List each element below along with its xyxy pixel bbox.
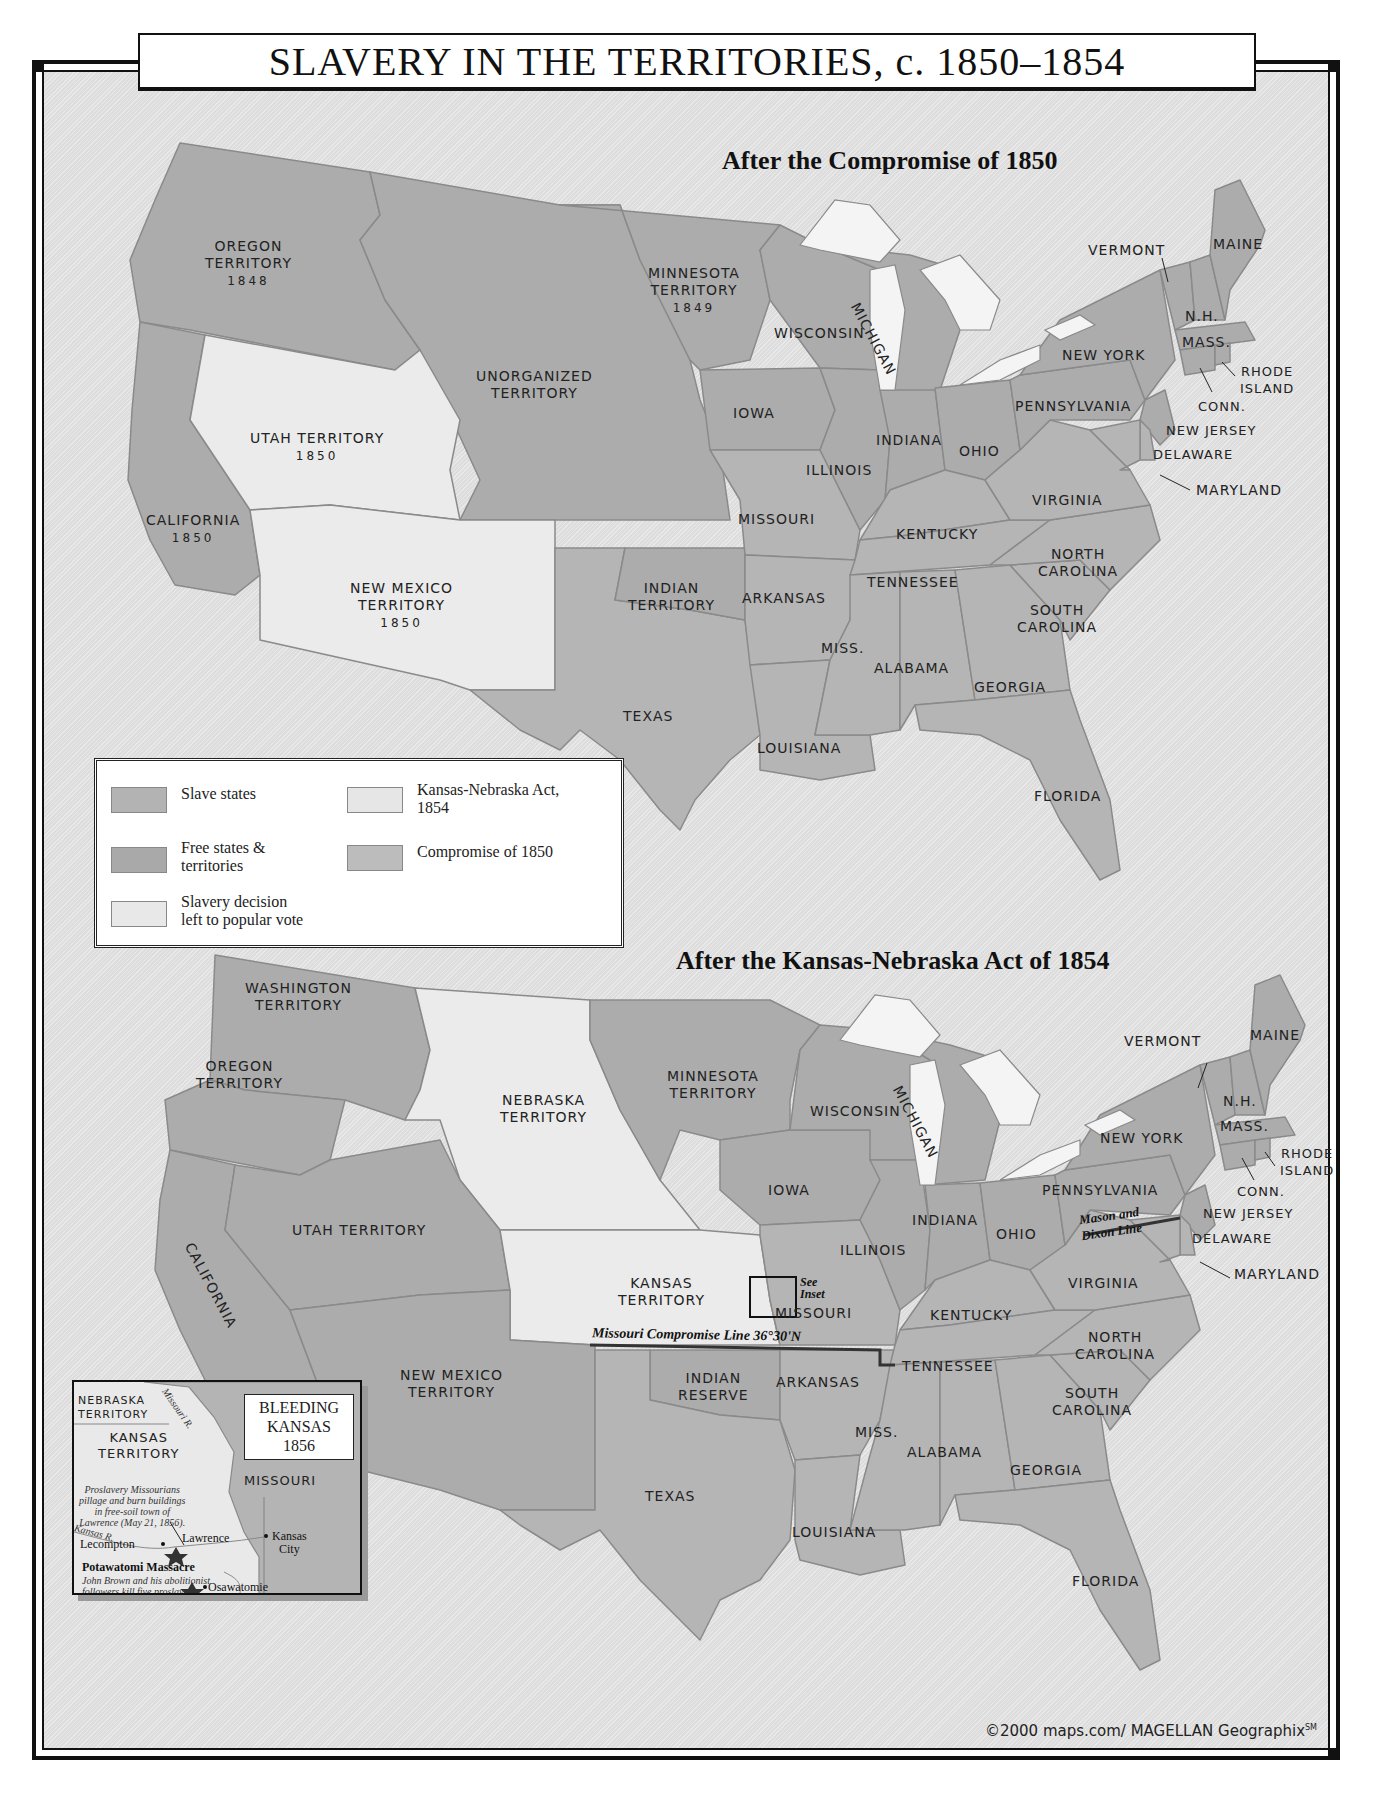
inset-massacre-note: John Brown and his abolitionist follower… <box>82 1575 210 1595</box>
legend-item-free-states: Free states & territories <box>111 839 265 875</box>
label-delaware-1854: DELAWARE <box>1192 1230 1272 1247</box>
inset-label-kansas: KANSAS TERRITORY <box>98 1430 179 1462</box>
label-ohio-1850: OHIO <box>959 443 1000 460</box>
label-south-carolina-1854: SOUTH CAROLINA <box>1052 1385 1132 1419</box>
inset-place-kansas-city: Kansas City <box>272 1530 307 1556</box>
label-minnesota-1854: MINNESOTA TERRITORY <box>667 1068 759 1102</box>
label-vermont-1854: VERMONT <box>1124 1033 1201 1050</box>
label-conn-1850: CONN. <box>1198 398 1246 415</box>
label-new-mexico-1854: NEW MEXICO TERRITORY <box>400 1367 503 1401</box>
copyright-credit: ©2000 maps.com/ MAGELLAN GeographixSM <box>985 1722 1317 1740</box>
title-banner: SLAVERY IN THE TERRITORIES, c. 1850–1854 <box>138 33 1256 91</box>
label-louisiana-1854: LOUISIANA <box>792 1524 876 1541</box>
label-rhode-island-1850: RHODE ISLAND <box>1240 363 1294 397</box>
label-nebraska-1854: NEBRASKA TERRITORY <box>500 1092 587 1126</box>
label-pennsylvania-1850: PENNSYLVANIA <box>1015 398 1131 415</box>
label-tennessee-1850: TENNESSEE <box>867 574 959 591</box>
label-washington-1854: WASHINGTON TERRITORY <box>245 980 352 1014</box>
label-utah-1854: UTAH TERRITORY <box>292 1222 426 1239</box>
label-virginia-1850: VIRGINIA <box>1032 492 1103 509</box>
label-arkansas-1854: ARKANSAS <box>776 1374 860 1391</box>
label-oregon-1854: OREGON TERRITORY <box>196 1058 283 1092</box>
label-indian-territory: INDIAN TERRITORY <box>628 580 715 614</box>
label-mass-1850: MASS. <box>1182 334 1231 351</box>
label-rhode-island-1854: RHODE ISLAND <box>1280 1145 1334 1179</box>
legend-item-kansas-nebraska: Kansas-Nebraska Act, 1854 <box>347 781 559 817</box>
label-texas-1850: TEXAS <box>623 708 673 725</box>
label-indian-reserve: INDIAN RESERVE <box>678 1370 749 1404</box>
label-maine-1854: MAINE <box>1250 1027 1300 1044</box>
label-nh-1854: N.H. <box>1223 1093 1257 1110</box>
label-south-carolina-1850: SOUTH CAROLINA <box>1017 602 1097 636</box>
inset-place-lawrence: Lawrence <box>182 1532 229 1545</box>
label-north-carolina-1854: NORTH CAROLINA <box>1075 1329 1155 1363</box>
label-unorganized: UNORGANIZED TERRITORY <box>476 368 593 402</box>
label-maryland-1850: MARYLAND <box>1196 482 1282 499</box>
label-kansas-1854: KANSAS TERRITORY <box>618 1275 705 1309</box>
label-georgia-1850: GEORGIA <box>974 679 1046 696</box>
legend-swatch-compromise <box>347 845 403 871</box>
inset-label-nebraska: NEBRASKA TERRITORY <box>78 1394 148 1422</box>
label-virginia-1854: VIRGINIA <box>1068 1275 1139 1292</box>
label-maine-1850: MAINE <box>1213 236 1263 253</box>
label-missouri-1850: MISSOURI <box>738 511 815 528</box>
inset-lawrence-note: Proslavery Missourians pillage and burn … <box>79 1484 185 1528</box>
label-arkansas-1850: ARKANSAS <box>742 590 826 607</box>
label-nh-1850: N.H. <box>1185 308 1219 325</box>
label-wisconsin-1854: WISCONSIN <box>810 1103 901 1120</box>
label-miss-1850: MISS. <box>821 640 864 657</box>
legend-swatch-slave <box>111 787 167 813</box>
label-indiana-1850: INDIANA <box>876 432 942 449</box>
label-new-mexico-1850: NEW MEXICO TERRITORY1850 <box>350 580 453 632</box>
legend-swatch-popular-vote <box>111 901 167 927</box>
legend-item-slave-states: Slave states <box>111 785 256 813</box>
label-pennsylvania-1854: PENNSYLVANIA <box>1042 1182 1158 1199</box>
label-indiana-1854: INDIANA <box>912 1212 978 1229</box>
label-tennessee-1854: TENNESSEE <box>902 1358 994 1375</box>
label-california-1850: CALIFORNIA1850 <box>146 512 240 547</box>
inset-massacre-title: Potawatomi Massacre <box>82 1560 195 1575</box>
inset-label-missouri: MISSOURI <box>244 1474 316 1488</box>
label-louisiana-1850: LOUISIANA <box>757 740 841 757</box>
label-ohio-1854: OHIO <box>996 1226 1037 1243</box>
label-minnesota-1850: MINNESOTA TERRITORY1849 <box>648 265 740 317</box>
label-alabama-1850: ALABAMA <box>874 660 949 677</box>
label-missouri-1854: MISSOURI <box>775 1305 852 1322</box>
label-kentucky-1854: KENTUCKY <box>930 1307 1012 1324</box>
label-conn-1854: CONN. <box>1237 1183 1285 1200</box>
label-vermont-1850: VERMONT <box>1088 242 1165 259</box>
map-title: SLAVERY IN THE TERRITORIES, c. 1850–1854 <box>269 38 1126 85</box>
inset-place-osawatomie: Osawatomie <box>208 1581 268 1594</box>
label-mass-1854: MASS. <box>1220 1118 1269 1135</box>
label-illinois-1854: ILLINOIS <box>840 1242 906 1259</box>
label-new-jersey-1854: NEW JERSEY <box>1203 1205 1293 1222</box>
label-wisconsin-1850: WISCONSIN <box>774 325 865 342</box>
label-delaware-1850: DELAWARE <box>1153 446 1233 463</box>
label-new-york-1850: NEW YORK <box>1062 347 1145 364</box>
see-inset-label: See Inset <box>800 1276 825 1300</box>
label-iowa-1854: IOWA <box>768 1182 810 1199</box>
legend-swatch-kansas-nebraska <box>347 787 403 813</box>
bleeding-kansas-inset: BLEEDING KANSAS 1856 NEBRASKA TERRITORY … <box>72 1380 362 1595</box>
inset-title: BLEEDING KANSAS 1856 <box>244 1394 354 1460</box>
label-illinois-1850: ILLINOIS <box>806 462 872 479</box>
label-oregon-1850: OREGON TERRITORY1848 <box>205 238 292 290</box>
label-new-york-1854: NEW YORK <box>1100 1130 1183 1147</box>
legend-item-compromise-1850: Compromise of 1850 <box>347 843 553 871</box>
legend-swatch-free <box>111 847 167 873</box>
label-alabama-1854: ALABAMA <box>907 1444 982 1461</box>
subtitle-1850: After the Compromise of 1850 <box>722 146 1058 176</box>
label-north-carolina-1850: NORTH CAROLINA <box>1038 546 1118 580</box>
subtitle-1854: After the Kansas-Nebraska Act of 1854 <box>676 946 1110 976</box>
label-kentucky-1850: KENTUCKY <box>896 526 978 543</box>
label-utah-1850: UTAH TERRITORY1850 <box>250 430 384 465</box>
map-legend: Slave states Free states & territories S… <box>94 758 624 948</box>
label-georgia-1854: GEORGIA <box>1010 1462 1082 1479</box>
label-miss-1854: MISS. <box>855 1424 898 1441</box>
label-maryland-1854: MARYLAND <box>1234 1266 1320 1283</box>
label-iowa-1850: IOWA <box>733 405 775 422</box>
legend-item-popular-vote: Slavery decision left to popular vote <box>111 893 303 929</box>
label-florida-1850: FLORIDA <box>1034 788 1101 805</box>
label-florida-1854: FLORIDA <box>1072 1573 1139 1590</box>
label-texas-1854: TEXAS <box>645 1488 695 1505</box>
